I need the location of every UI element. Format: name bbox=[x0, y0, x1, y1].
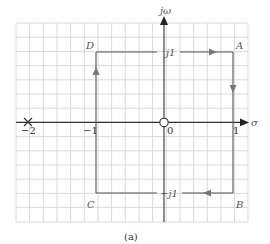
corner-label-b: B bbox=[235, 199, 243, 210]
jw-axis-arrow-icon bbox=[160, 16, 168, 25]
s-plane-diagram: jω σ −2 −1 0 1 j1 −j1 A B C D (a) bbox=[0, 0, 270, 244]
jw-axis-label: jω bbox=[158, 5, 171, 16]
tick-label-neg2: −2 bbox=[21, 125, 36, 136]
tick-label-neg1: −1 bbox=[83, 125, 98, 136]
corner-label-d: D bbox=[85, 40, 94, 51]
tick-label-neg-j1: −j1 bbox=[160, 188, 178, 199]
corner-label-a: A bbox=[235, 40, 243, 51]
corner-label-c: C bbox=[87, 199, 95, 210]
sigma-axis-label: σ bbox=[251, 117, 259, 128]
tick-label-1: 1 bbox=[233, 125, 239, 136]
tick-label-0: 0 bbox=[167, 125, 173, 136]
arrow-up-icon bbox=[93, 67, 100, 75]
tick-label-j1: j1 bbox=[164, 47, 175, 58]
arrow-right-icon bbox=[209, 49, 217, 56]
figure-caption: (a) bbox=[124, 231, 138, 242]
arrow-down-icon bbox=[230, 85, 237, 93]
